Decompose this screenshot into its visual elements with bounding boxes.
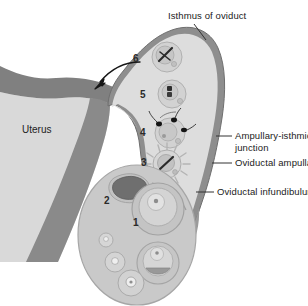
stage-number-3: 3 — [141, 158, 147, 168]
stage-6-polar-body — [171, 61, 176, 66]
stage-5-pronuclei — [158, 80, 186, 108]
stage-4-oocyte — [159, 123, 177, 141]
stage-5-female-pronucleus — [167, 92, 172, 97]
graafian-follicle — [132, 183, 184, 235]
primary-follicle-2-oocyte — [112, 258, 119, 265]
sperm-head-1 — [156, 122, 162, 127]
sperm-head-3 — [181, 128, 187, 132]
stage-number-2: 2 — [104, 196, 110, 206]
primary-follicle-1-oocyte — [104, 237, 109, 242]
stage-5-male-pronucleus — [167, 86, 172, 91]
stage-number-6: 6 — [133, 54, 139, 64]
label-oviductal-infundibulum: Oviductal infundibulum — [217, 186, 308, 198]
label-isthmus-of-oviduct: Isthmus of oviduct — [168, 10, 246, 22]
stage-number-1: 1 — [133, 218, 139, 228]
secondary-follicle-nucleus — [129, 280, 132, 283]
label-ampullary-isthmic-junction-line1: Ampullary-isthmic — [235, 130, 308, 142]
stage-4-polar-body — [175, 138, 180, 143]
stage-number-4: 4 — [140, 128, 146, 138]
stage-3-polar-body — [173, 170, 178, 175]
label-ampullary-isthmic-junction-line2: junction — [235, 142, 269, 154]
label-oviductal-ampulla: Oviductal ampulla — [235, 157, 308, 169]
label-uterus: Uterus — [22, 124, 51, 135]
stage-4-nucleus — [162, 134, 166, 138]
anatomical-figure: Isthmus of oviduct Uterus Ampullary-isth… — [0, 0, 308, 306]
ruptured-follicle-nucleus — [155, 251, 159, 255]
sperm-head-2 — [171, 118, 177, 123]
stage-number-5: 5 — [140, 90, 146, 100]
stage-5-polar-body — [177, 98, 182, 103]
ovary-structure — [78, 165, 196, 305]
graafian-oocyte-nucleus — [154, 199, 158, 203]
stage-6-embryo — [152, 42, 182, 72]
